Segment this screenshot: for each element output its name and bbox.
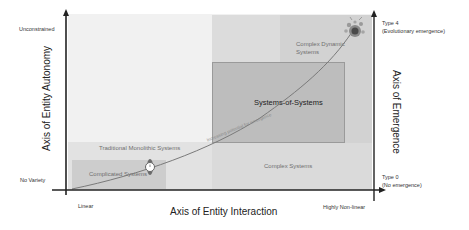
emergence-axis-arrow-icon [371, 10, 377, 17]
autonomy-max-label: Unconstrained [19, 26, 54, 33]
simple-system-marker-icon [146, 159, 155, 175]
interaction-axis-title: Axis of Entity Interaction [170, 206, 277, 217]
autonomy-axis-arrow-icon [63, 9, 69, 16]
emergence-curve [72, 32, 352, 189]
evolutionary-organism-icon [344, 17, 365, 37]
interaction-max-label: Highly Non-linear [323, 204, 365, 211]
emergence-min-label-line2: (No emergence) [382, 182, 422, 189]
interaction-min-label: Linear [78, 203, 93, 210]
emergence-max-label-line1: Type 4 [382, 20, 399, 27]
autonomy-min-label: No Variety [20, 177, 45, 184]
emergence-min-label-line1: Type 0 [382, 174, 399, 181]
autonomy-axis-title: Axis of Entity Autonomy [41, 46, 52, 151]
emergence-axis-title: Axis of Emergence [391, 70, 402, 154]
emergence-max-label-line2: (Evolutionary emergence) [382, 28, 445, 35]
